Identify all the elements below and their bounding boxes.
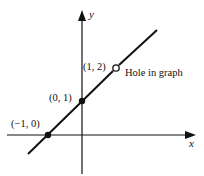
point-0-1 (79, 98, 85, 104)
graph-figure: y x (−1, 0) (0, 1) (1, 2) Hole in graph (0, 0, 204, 176)
hole-point-1-2 (113, 65, 119, 71)
graph-line-upper (119, 30, 157, 65)
point-neg1-0 (45, 132, 51, 138)
y-axis-label: y (88, 8, 94, 20)
label-point-0-1: (0, 1) (49, 92, 72, 104)
x-axis-label: x (188, 137, 194, 149)
label-point-1-2: (1, 2) (83, 61, 106, 73)
graph-line-lower (28, 71, 113, 154)
label-point-neg1-0: (−1, 0) (11, 118, 40, 130)
hole-annotation: Hole in graph (125, 67, 183, 78)
y-axis-arrow-icon (78, 10, 86, 21)
